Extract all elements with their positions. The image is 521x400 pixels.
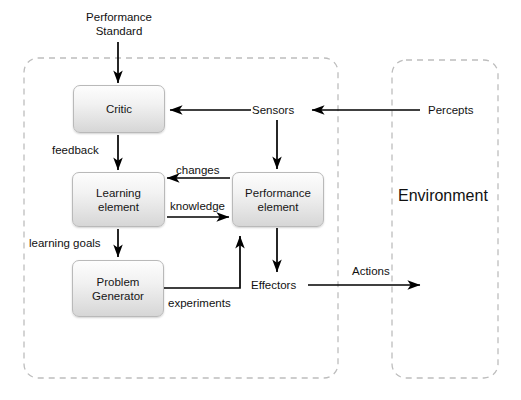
box-learning-element[interactable]: Learning element	[72, 172, 165, 227]
label-percepts: Percepts	[428, 103, 473, 117]
label-performance-standard-line2: Standard	[96, 25, 143, 37]
box-problem-generator[interactable]: Problem Generator	[72, 260, 164, 317]
label-knowledge: knowledge	[170, 199, 225, 213]
box-critic[interactable]: Critic	[73, 85, 165, 133]
box-learning-element-line1: Learning	[96, 186, 141, 200]
box-critic-label: Critic	[106, 102, 132, 116]
label-actions: Actions	[352, 264, 390, 278]
box-learning-element-line2: element	[98, 200, 139, 214]
box-performance-element[interactable]: Performance element	[232, 172, 324, 227]
label-sensors: Sensors	[252, 103, 294, 117]
label-effectors: Effectors	[251, 278, 296, 292]
box-problem-generator-line1: Problem	[97, 275, 140, 289]
arrow-experiments-to-performance	[163, 236, 240, 288]
box-problem-generator-line2: Generator	[92, 289, 144, 303]
box-performance-element-line2: element	[258, 200, 299, 214]
label-feedback: feedback	[52, 143, 99, 157]
diagram-canvas: Critic Learning element Problem Generato…	[0, 0, 521, 400]
label-learning-goals: learning goals	[29, 236, 101, 250]
box-performance-element-line1: Performance	[245, 186, 311, 200]
label-environment: Environment	[398, 187, 488, 205]
label-performance-standard: Performance Standard	[78, 10, 160, 38]
label-changes: changes	[176, 163, 219, 177]
label-performance-standard-line1: Performance	[86, 11, 152, 23]
label-experiments: experiments	[168, 296, 231, 310]
